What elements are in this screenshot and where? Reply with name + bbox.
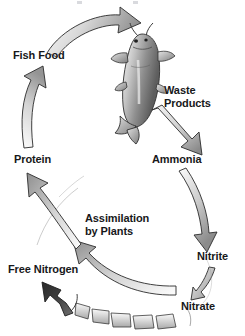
nitrogen-cycle-diagram: Fish Food Waste Products Protein Ammonia… xyxy=(0,0,245,336)
label-free-nitrogen: Free Nitrogen xyxy=(8,263,78,276)
arrow-ammonia-to-nitrite xyxy=(179,168,217,252)
label-protein: Protein xyxy=(14,153,51,166)
plant-chain-segments xyxy=(75,303,191,329)
label-waste-products: Waste Products xyxy=(164,84,211,109)
arrow-waste-to-ammonia xyxy=(152,105,202,155)
label-fish-food: Fish Food xyxy=(13,49,65,62)
label-nitrate: Nitrate xyxy=(181,300,215,313)
arrow-to-free-nitrogen xyxy=(42,282,77,316)
label-ammonia: Ammonia xyxy=(152,153,201,166)
label-assimilation-by-plants: Assimilation by Plants xyxy=(85,212,149,237)
label-nitrite: Nitrite xyxy=(197,250,228,263)
arrow-protein-to-fish-food xyxy=(22,66,46,148)
